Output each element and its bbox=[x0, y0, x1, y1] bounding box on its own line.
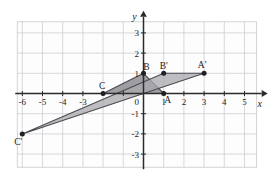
svg-text:2: 2 bbox=[182, 97, 187, 107]
svg-text:5: 5 bbox=[242, 97, 247, 107]
svg-text:3: 3 bbox=[202, 97, 207, 107]
svg-text:1: 1 bbox=[135, 69, 140, 79]
svg-text:2: 2 bbox=[135, 49, 140, 59]
svg-text:C': C' bbox=[14, 137, 22, 147]
svg-text:-4: -4 bbox=[59, 97, 67, 107]
svg-text:-6: -6 bbox=[19, 97, 27, 107]
svg-text:-3: -3 bbox=[132, 150, 140, 160]
svg-text:C: C bbox=[99, 81, 105, 91]
svg-text:0: 0 bbox=[135, 97, 140, 107]
svg-text:A: A bbox=[164, 95, 171, 105]
svg-text:-3: -3 bbox=[79, 97, 87, 107]
svg-text:A': A' bbox=[198, 60, 207, 70]
coordinate-plot: -6-5-4-312345321-1-2-30xy ABCA'B'C' bbox=[0, 0, 275, 186]
coordinate-plane-figure: -6-5-4-312345321-1-2-30xy ABCA'B'C' bbox=[0, 0, 275, 186]
svg-text:-2: -2 bbox=[132, 129, 140, 139]
svg-text:x: x bbox=[256, 98, 262, 109]
svg-text:B: B bbox=[143, 62, 149, 72]
svg-text:-1: -1 bbox=[132, 109, 140, 119]
svg-text:B': B' bbox=[160, 61, 168, 71]
svg-text:-5: -5 bbox=[39, 97, 47, 107]
svg-text:3: 3 bbox=[135, 28, 140, 38]
svg-text:4: 4 bbox=[222, 97, 227, 107]
svg-text:y: y bbox=[131, 11, 137, 22]
